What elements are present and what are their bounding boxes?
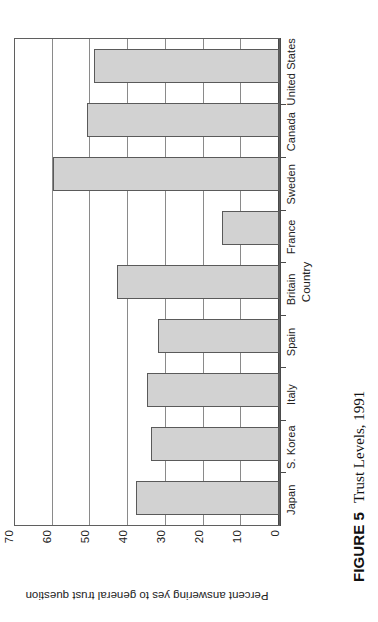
bar-slot [15,39,279,93]
bar-slot [15,417,279,471]
category-tick-mark [280,420,286,421]
rotated-figure-stage: 010203040506070 Percent answering yes to… [0,0,378,622]
figure-caption-label: FIGURE 5 [350,512,367,582]
value-axis-title: Percent answering yes to general trust q… [0,590,297,602]
category-tick-label: Sweden [285,164,297,204]
bar-slot [15,255,279,309]
category-tick-mark [280,262,286,263]
value-axis-tick-label: 60 [41,530,53,543]
bar [117,265,279,298]
value-axis: 010203040506070 Percent answering yes to… [14,526,280,578]
category-tick-mark [280,472,286,473]
bar [158,319,279,352]
bar-slot [15,201,279,255]
category-tick-label: Spain [285,328,297,357]
category-tick-label: Italy [285,384,297,405]
figure-container: 010203040506070 Percent answering yes to… [0,0,378,622]
value-axis-tick-label: 70 [3,530,15,543]
category-tick-label: S. Korea [285,425,297,469]
bar-slot [15,147,279,201]
category-axis-title: Country [300,38,312,526]
bar [151,427,279,460]
bar [136,481,279,514]
category-tick-mark [280,210,286,211]
category-tick-mark [280,315,286,316]
category-tick-label: United States [285,38,297,105]
value-axis-tick-label: 20 [193,530,205,543]
category-tick-mark [280,157,286,158]
category-tick-label: Canada [285,112,297,151]
bar [94,49,279,82]
bar [87,103,279,136]
category-tick-mark [280,104,286,105]
bar-slot [15,471,279,525]
bar-slot [15,309,279,363]
bar-slot [15,93,279,147]
bar [222,211,279,244]
bar [53,157,279,190]
category-tick-mark [280,367,286,368]
bar-series [15,39,279,525]
bar-slot [15,363,279,417]
chart-plot-wrapper: 010203040506070 Percent answering yes to… [14,38,314,578]
value-axis-tick-label: 30 [155,530,167,543]
value-axis-tick-label: 50 [79,530,91,543]
value-axis-tick-label: 10 [231,530,243,543]
category-tick-label: Britain [285,273,297,305]
figure-caption-text: Trust Levels, 1991 [351,391,368,503]
value-axis-tick-label: 0 [269,530,281,537]
figure-caption: FIGURE 5 Trust Levels, 1991 [350,42,372,582]
category-tick-label: Japan [285,484,297,514]
category-axis: JapanS. KoreaItalySpainBritainFranceSwed… [280,38,314,526]
bar [147,373,279,406]
figure-page: 010203040506070 Percent answering yes to… [0,0,378,622]
category-tick-label: France [285,219,297,254]
value-axis-tick-label: 40 [117,530,129,543]
plot-area [14,38,280,526]
